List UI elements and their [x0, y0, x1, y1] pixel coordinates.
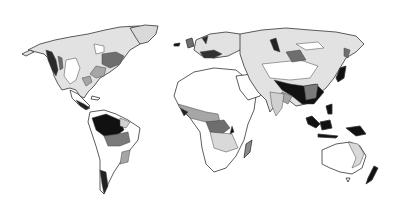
madagascar — [244, 140, 252, 158]
new-zealand — [366, 166, 378, 184]
australia — [322, 142, 366, 182]
world-map — [0, 0, 399, 207]
indonesia — [306, 104, 366, 138]
north-america — [22, 26, 150, 98]
europe — [174, 32, 246, 58]
south-america — [88, 110, 140, 194]
